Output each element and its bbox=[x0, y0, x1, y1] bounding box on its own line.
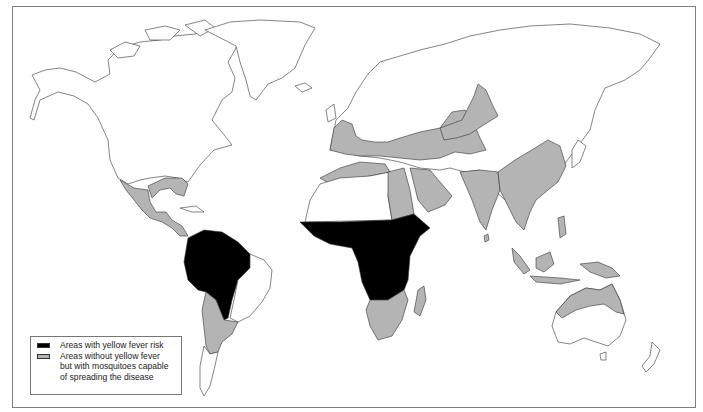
legend-label: Areas without yellow fever but with mosq… bbox=[60, 351, 168, 383]
black-swatch-icon bbox=[37, 343, 50, 348]
legend-item-risk: Areas with yellow fever risk bbox=[37, 340, 177, 351]
legend-label: Areas with yellow fever risk bbox=[60, 340, 164, 351]
india-mosquito bbox=[460, 170, 500, 230]
gray-swatch-icon bbox=[37, 354, 50, 359]
arabia-mosquito bbox=[410, 168, 452, 212]
new-zealand bbox=[642, 342, 660, 372]
egypt-sudan-mosquito bbox=[388, 168, 414, 220]
us-gulf-mosquito bbox=[148, 178, 188, 198]
africa-risk bbox=[300, 214, 430, 300]
legend-item-mosquito: Areas without yellow fever but with mosq… bbox=[37, 351, 177, 383]
new-guinea-mosquito bbox=[580, 262, 620, 278]
sahara bbox=[305, 172, 392, 222]
madagascar-mosquito bbox=[414, 286, 426, 316]
indonesia-mosquito bbox=[512, 248, 530, 274]
map-legend: Areas with yellow fever risk Areas witho… bbox=[30, 336, 182, 395]
